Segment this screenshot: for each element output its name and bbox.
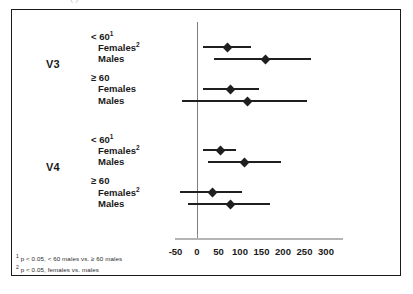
x-axis-tick-0 [197, 234, 198, 238]
estimate-marker [261, 54, 271, 64]
estimate-marker [243, 96, 253, 106]
x-axis-tick-label: 250 [297, 246, 313, 257]
forest-row [12, 41, 402, 53]
forest-row [12, 186, 402, 198]
forest-plot-area: V3< 601Females2Males≥ 60FemalesMalesV4< … [12, 10, 402, 277]
clipped-caption-text: ( ) [70, 0, 79, 3]
forest-row [12, 144, 402, 156]
footnote: 1 p < 0.05, < 60 males vs. ≥ 60 males [16, 253, 122, 262]
forest-row [12, 95, 402, 107]
estimate-marker [226, 84, 236, 94]
forest-row [12, 156, 402, 168]
estimate-marker [239, 157, 249, 167]
x-axis-tick-label: 0 [194, 246, 199, 257]
x-axis-tick-label: 300 [318, 246, 334, 257]
forest-row [12, 198, 402, 210]
forest-row [12, 53, 402, 65]
footnote: 2 p < 0.05, females vs. males [16, 264, 99, 273]
x-axis-line [175, 238, 343, 240]
estimate-marker [207, 187, 217, 197]
subgroup-heading: ≥ 60 [91, 72, 109, 83]
estimate-marker [216, 145, 226, 155]
x-axis-tick-label: 100 [232, 246, 248, 257]
forest-row [12, 83, 402, 95]
estimate-marker [226, 199, 236, 209]
x-axis-tick-label: -50 [169, 246, 183, 257]
x-axis-tick-label: 200 [275, 246, 291, 257]
x-axis-tick-label: 150 [254, 246, 270, 257]
clipped-caption-strip: ( ) [0, 0, 413, 9]
x-axis-tick-label: 50 [213, 246, 224, 257]
figure-frame: V3< 601Females2Males≥ 60FemalesMalesV4< … [11, 9, 401, 276]
subgroup-heading: ≥ 60 [91, 175, 109, 186]
estimate-marker [222, 42, 232, 52]
